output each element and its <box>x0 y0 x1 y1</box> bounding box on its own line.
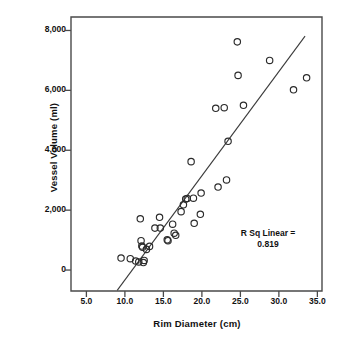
data-point-marker <box>197 211 203 217</box>
data-point-marker <box>303 75 309 81</box>
data-point-marker <box>173 232 179 238</box>
data-point-marker <box>215 184 221 190</box>
data-point-marker <box>171 230 177 236</box>
data-point-marker <box>266 57 272 63</box>
data-point-marker <box>234 39 240 45</box>
data-point-marker <box>188 158 194 164</box>
scatter-plot-figure: Vessel Volume (ml) Rim Diameter (cm) 02,… <box>0 0 353 339</box>
plot-canvas <box>0 0 353 339</box>
data-point-marker <box>190 195 196 201</box>
data-point-marker <box>240 102 246 108</box>
data-point-marker <box>169 221 175 227</box>
data-point-marker <box>178 208 184 214</box>
data-point-marker <box>137 216 143 222</box>
data-point-marker <box>198 190 204 196</box>
data-point-marker <box>213 105 219 111</box>
data-point-marker <box>156 214 162 220</box>
data-point-marker <box>290 87 296 93</box>
r-squared-annotation: R Sq Linear = 0.819 <box>218 228 318 250</box>
data-point-marker <box>235 72 241 78</box>
data-point-marker <box>191 220 197 226</box>
data-point-marker <box>118 255 124 261</box>
data-point-marker <box>221 105 227 111</box>
data-point-marker <box>223 177 229 183</box>
